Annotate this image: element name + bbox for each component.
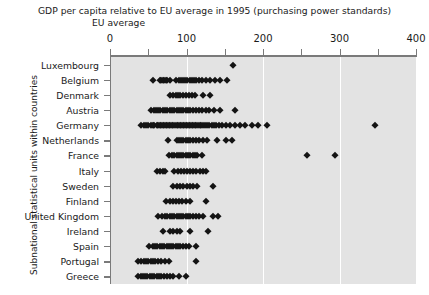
y-tick-belgium <box>104 80 110 81</box>
y-tick-italy <box>104 171 110 172</box>
y-axis-label-spain: Spain <box>73 241 99 252</box>
y-axis-label-luxembourg: Luxembourg <box>41 59 99 70</box>
chart-title-block: GDP per capita relative to EU average in… <box>0 5 429 17</box>
y-tick-germany <box>104 125 110 126</box>
x-tick-label-300: 300 <box>330 33 349 44</box>
x-tick-0 <box>110 49 111 56</box>
x-tick-300 <box>340 49 341 56</box>
y-tick-luxembourg <box>104 65 110 66</box>
x-tick-100 <box>187 49 188 56</box>
y-axis-label-finland: Finland <box>66 195 99 206</box>
x-tick-label-200: 200 <box>253 33 272 44</box>
y-tick-france <box>104 155 110 156</box>
y-tick-greece <box>104 276 110 277</box>
y-axis-label-united-kingdom: United Kingdom <box>24 210 99 221</box>
y-axis-label-france: France <box>68 150 99 161</box>
y-tick-portugal <box>104 261 110 262</box>
chart-title: GDP per capita relative to EU average in… <box>0 5 429 17</box>
x-tick-400 <box>416 49 417 56</box>
chart-subtitle: EU average <box>0 17 333 29</box>
y-tick-spain <box>104 246 110 247</box>
y-tick-united-kingdom <box>104 216 110 217</box>
y-tick-finland <box>104 201 110 202</box>
x-tick-50 <box>148 49 149 56</box>
y-axis-label-sweden: Sweden <box>62 180 99 191</box>
y-axis-label-ireland: Ireland <box>67 226 99 237</box>
y-tick-sweden <box>104 186 110 187</box>
gridline-200 <box>263 57 264 284</box>
y-axis-label-netherlands: Netherlands <box>42 135 99 146</box>
y-tick-austria <box>104 110 110 111</box>
x-tick-200 <box>263 49 264 56</box>
x-tick-150 <box>225 49 226 56</box>
y-axis-label-denmark: Denmark <box>56 89 99 100</box>
y-axis-label-portugal: Portugal <box>60 256 99 267</box>
x-tick-label-0: 0 <box>107 33 113 44</box>
y-axis-label-austria: Austria <box>66 104 99 115</box>
y-axis-label-greece: Greece <box>66 271 99 282</box>
x-tick-350 <box>378 49 379 56</box>
chart-figure: GDP per capita relative to EU average in… <box>0 0 429 295</box>
x-tick-label-400: 400 <box>406 33 425 44</box>
y-axis-line <box>110 57 111 284</box>
y-axis-title: Subnational statistical units within cou… <box>29 75 39 275</box>
y-axis-label-belgium: Belgium <box>61 74 99 85</box>
x-tick-250 <box>301 49 302 56</box>
y-tick-denmark <box>104 95 110 96</box>
y-tick-ireland <box>104 231 110 232</box>
y-tick-netherlands <box>104 140 110 141</box>
gridline-300 <box>340 57 341 284</box>
y-axis-label-germany: Germany <box>56 120 99 131</box>
y-axis-label-italy: Italy <box>79 165 99 176</box>
x-tick-label-100: 100 <box>177 33 196 44</box>
